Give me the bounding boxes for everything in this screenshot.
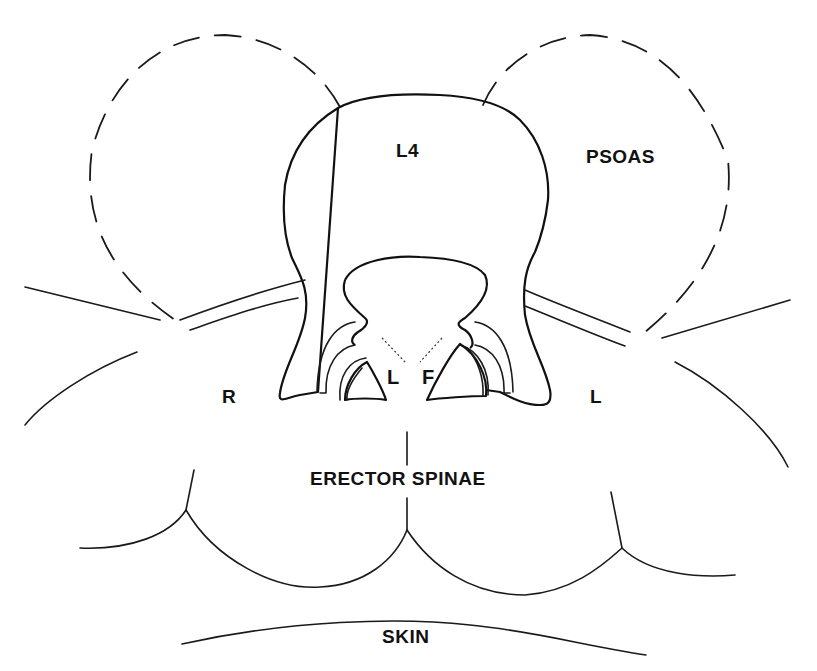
psoas-left-outline <box>483 35 729 340</box>
fascia-right-double-2 <box>525 306 625 346</box>
erector-spinae-label: ERECTOR SPINAE <box>310 468 486 490</box>
facet-label: F <box>422 366 435 389</box>
erector-right-outer <box>622 548 735 576</box>
fascia-left-lower <box>25 352 137 425</box>
erector-right-stem <box>611 492 622 548</box>
erector-left-middle <box>186 510 407 587</box>
left-facet-arc <box>460 345 488 395</box>
psoas-right-outline <box>90 35 340 320</box>
spinal-canal-outline <box>344 257 487 348</box>
right-facet-triangle <box>345 362 386 400</box>
fascia-right-double-1 <box>525 290 630 332</box>
fascia-left-double-2 <box>190 298 298 330</box>
diagram-canvas: L4 PSOAS R L L F ERECTOR SPINAE SKIN <box>0 0 817 671</box>
fascia-right-lower <box>675 362 788 467</box>
erector-right-middle <box>407 530 622 595</box>
vertebra-label: L4 <box>396 140 419 162</box>
right-side-label: R <box>222 386 236 408</box>
left-facet-triangle <box>427 344 486 400</box>
fascia-right-upper <box>662 300 790 338</box>
erector-left-scallop-stem <box>186 470 194 510</box>
erector-left-outer <box>80 510 186 548</box>
ligament-dotted-left <box>420 338 442 362</box>
psoas-label: PSOAS <box>586 146 655 168</box>
left-facet-inner <box>467 348 483 396</box>
left-side-label: L <box>590 386 602 408</box>
skin-label: SKIN <box>382 626 429 648</box>
diagram-drawing <box>0 0 817 671</box>
ligamentum-label: L <box>387 366 400 389</box>
ligament-dotted-right <box>382 338 405 362</box>
